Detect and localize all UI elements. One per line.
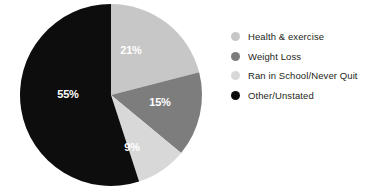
pie-chart-figure: 21%15%9%55% Health & exercise Weight Los…	[0, 0, 374, 190]
legend-label-ran-in-school: Ran in School/Never Quit	[248, 70, 358, 81]
legend-label-other-unstated: Other/Unstated	[248, 90, 314, 101]
legend-item-weight-loss[interactable]: Weight Loss	[231, 47, 374, 67]
legend-swatch-icon-weight-loss	[231, 52, 240, 61]
legend-swatch-icon-health-exercise	[231, 32, 240, 41]
pie-slice-value-label: 9%	[124, 141, 140, 153]
legend-swatch-icon-ran-in-school	[231, 71, 240, 80]
legend-item-health-exercise[interactable]: Health & exercise	[231, 27, 374, 47]
legend-label-weight-loss: Weight Loss	[248, 51, 301, 62]
pie-slice-group	[20, 4, 202, 186]
pie-chart-area: 21%15%9%55%	[20, 4, 202, 186]
legend-label-health-exercise: Health & exercise	[248, 31, 324, 42]
pie-slice-value-label: 15%	[149, 96, 171, 108]
pie-svg: 21%15%9%55%	[20, 4, 202, 186]
chart-legend: Health & exercise Weight Loss Ran in Sch…	[231, 27, 374, 105]
legend-item-other-unstated[interactable]: Other/Unstated	[231, 86, 374, 106]
pie-slice-value-label: 55%	[57, 88, 79, 100]
legend-swatch-icon-other-unstated	[231, 91, 240, 100]
legend-item-ran-in-school[interactable]: Ran in School/Never Quit	[231, 66, 374, 86]
pie-slice-value-label: 21%	[120, 44, 142, 56]
